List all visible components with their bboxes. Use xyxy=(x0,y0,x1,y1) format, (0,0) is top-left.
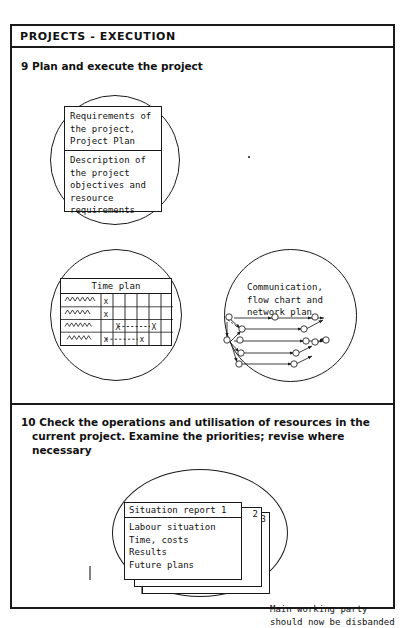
diagram-frame: PROJECTS - EXECUTION 9 Plan and execute … xyxy=(10,24,395,609)
requirements-box: Requirements of the project, Project Pla… xyxy=(64,106,162,212)
situation-report-lines: Labour situation Time, costs Results Fut… xyxy=(125,518,241,571)
svg-text:x: x xyxy=(104,297,109,306)
time-plan-table: Time plan xyxy=(60,278,172,346)
requirements-cell-bottom: Description of the project objectives an… xyxy=(65,151,161,212)
situation-report-card-1: Situation report 1 Labour situation Time… xyxy=(124,502,242,580)
svg-text:x: x xyxy=(140,335,145,344)
svg-text:x: x xyxy=(104,335,109,344)
situation-report-card-2-number: 2 xyxy=(253,509,258,519)
situation-report-title: Situation report 1 xyxy=(125,503,241,518)
page-title: PROJECTS - EXECUTION xyxy=(20,30,176,43)
step-10-text: 10 Check the operations and utilisation … xyxy=(21,415,370,457)
network-circle-label: Communication, flow chart and network pl… xyxy=(247,281,323,319)
stray-dot xyxy=(248,156,250,158)
step-9-text: 9 Plan and execute the project xyxy=(21,59,203,73)
header-band: PROJECTS - EXECUTION xyxy=(12,26,393,48)
svg-text:X: X xyxy=(116,323,121,332)
section-divider xyxy=(12,403,393,405)
time-plan-grid: x x X X x x xyxy=(61,294,171,345)
time-plan-title: Time plan xyxy=(61,279,171,294)
disband-note: Main working party should now be disband… xyxy=(270,603,395,628)
time-plan-grid-vectors: x x X X x x xyxy=(61,294,173,345)
svg-text:x: x xyxy=(104,310,109,319)
requirements-cell-top: Requirements of the project, Project Pla… xyxy=(65,107,161,151)
svg-text:X: X xyxy=(152,323,157,332)
